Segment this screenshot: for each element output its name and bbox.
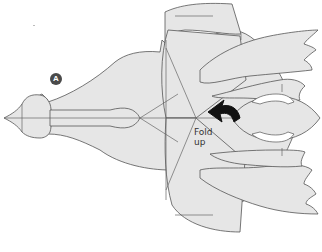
fold-instruction-line2: up <box>194 137 213 147</box>
step-marker-badge: A <box>50 73 62 85</box>
origami-diagram: A Fold up <box>0 0 322 252</box>
fold-instruction-line1: Fold <box>194 127 213 137</box>
head <box>4 95 52 138</box>
fold-instruction-label: Fold up <box>194 127 213 147</box>
bird-fold-drawing <box>0 0 322 252</box>
